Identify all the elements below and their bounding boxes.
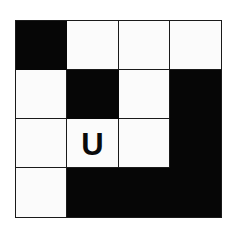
grid-cell-r1c3[interactable] [119,21,170,70]
grid-cell-r4c4[interactable] [170,168,221,217]
grid-cell-r2c4[interactable] [170,70,221,119]
grid-cell-r2c1[interactable] [16,70,67,119]
grid-cell-r1c1[interactable] [16,21,67,70]
puzzle-grid: U [15,20,222,218]
grid-cell-r3c3[interactable] [119,119,170,168]
grid-cell-r3c1[interactable] [16,119,67,168]
grid-cell-r1c2[interactable] [67,21,118,70]
grid-cell-r2c2[interactable] [67,70,118,119]
grid-cell-r4c3[interactable] [119,168,170,217]
grid-cell-r4c1[interactable] [16,168,67,217]
grid-cell-r1c4[interactable] [170,21,221,70]
grid-puzzle-figure: U [15,20,222,218]
grid-cell-r3c2[interactable]: U [67,119,118,168]
grid-cell-r2c3[interactable] [119,70,170,119]
grid-cell-r4c2[interactable] [67,168,118,217]
grid-cell-r3c4[interactable] [170,119,221,168]
cell-letter: U [81,129,103,160]
